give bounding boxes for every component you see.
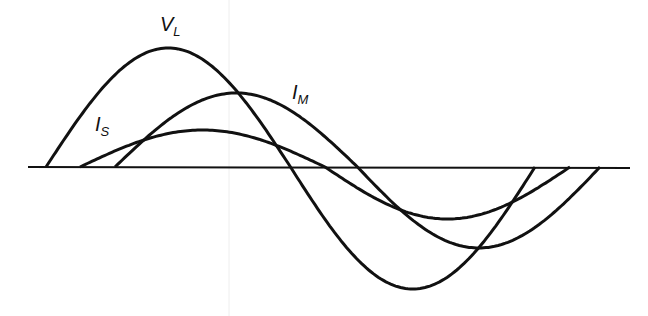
label-im: IM <box>292 82 308 106</box>
time-axis <box>28 167 630 168</box>
label-vl: VL <box>160 14 181 38</box>
waveform-diagram: VL IM IS <box>0 0 648 316</box>
current-curve-im <box>115 93 600 248</box>
waveform-plot <box>0 0 648 316</box>
current-curve-is <box>80 130 570 219</box>
label-is: IS <box>95 114 109 138</box>
